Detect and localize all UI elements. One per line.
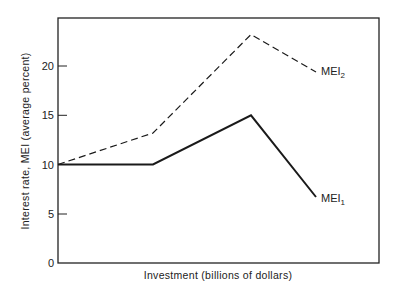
mei1-label-base: MEI <box>321 192 341 204</box>
mei1-series-label: MEI1 <box>321 192 345 207</box>
y-tick-label-5: 5 <box>34 208 54 220</box>
y-axis-label: Interest rate, MEI (average percent) <box>19 52 31 229</box>
mei2-label-base: MEI <box>321 65 341 77</box>
mei1-solid-line <box>58 115 316 197</box>
plot-frame <box>58 18 379 263</box>
mei1-label-subscript: 1 <box>341 198 345 207</box>
mei2-dashed-line <box>58 35 316 165</box>
y-tick-label-20: 20 <box>34 60 54 72</box>
chart-canvas <box>0 0 399 300</box>
y-tick-label-10: 10 <box>34 159 54 171</box>
x-axis-label: Investment (billions of dollars) <box>144 269 293 281</box>
y-tick-label-0: 0 <box>34 257 54 269</box>
mei2-label-subscript: 2 <box>341 71 345 80</box>
mei2-series-label: MEI2 <box>321 65 345 80</box>
y-axis-ticks <box>58 66 67 214</box>
y-tick-label-15: 15 <box>34 109 54 121</box>
